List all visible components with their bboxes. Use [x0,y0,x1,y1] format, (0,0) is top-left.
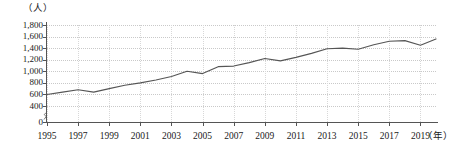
y-tick-label-800: 800 [11,78,43,87]
x-tick-mark-1997 [78,123,79,126]
y-tick-label-1400: 1,400 [11,44,43,53]
x-tick-mark-2001 [140,123,141,126]
x-axis-line [46,122,438,123]
x-tick-mark-2013 [327,123,328,126]
x-tick-mark-2017 [389,123,390,126]
x-tick-label-2013: 2013 [318,131,337,142]
x-tick-label-2005: 2005 [193,131,212,142]
x-axis-unit-label: （年） [423,131,451,142]
x-tick-mark-2015 [358,123,359,126]
x-tick-mark-1995 [47,123,48,126]
y-tick-mark-600 [43,94,47,95]
x-tick-mark-1999 [109,123,110,126]
y-tick-mark-1200 [43,60,47,61]
y-tick-mark-1000 [43,71,47,72]
x-tick-label-2017: 2017 [380,131,399,142]
y-tick-label-1800: 1,800 [11,21,43,30]
x-tick-mark-2009 [265,123,266,126]
y-tick-label-1000: 1,000 [11,67,43,76]
y-tick-mark-1600 [43,37,47,38]
x-tick-label-1997: 1997 [69,131,88,142]
plot-area [47,25,436,122]
x-tick-mark-2005 [203,123,204,126]
y-tick-mark-1800 [43,25,47,26]
y-tick-mark-1400 [43,48,47,49]
x-tick-mark-2019 [420,123,421,126]
x-tick-mark-2011 [296,123,297,126]
y-tick-label-400: 400 [11,102,43,111]
y-tick-mark-800 [43,83,47,84]
x-tick-label-1999: 1999 [100,131,119,142]
x-tick-label-2011: 2011 [287,131,306,142]
y-tick-mark-400 [43,106,47,107]
x-tick-label-2009: 2009 [255,131,274,142]
y-tick-label-1200: 1,200 [11,55,43,64]
y-tick-label-0: 0 [11,118,43,127]
y-tick-label-1600: 1,600 [11,32,43,41]
series-line-人数 [47,39,436,95]
x-tick-label-1995: 1995 [38,131,57,142]
series-line-group [47,25,436,122]
x-tick-label-2003: 2003 [162,131,181,142]
axis-break-icon [43,112,50,120]
x-tick-mark-2003 [171,123,172,126]
x-tick-label-2007: 2007 [224,131,243,142]
x-tick-label-2001: 2001 [131,131,150,142]
x-tick-mark-2007 [234,123,235,126]
y-axis-unit-label: （人） [23,3,52,14]
line-chart: （人） 04006008001,0001,2001,4001,6001,800 … [0,0,451,152]
x-tick-label-2015: 2015 [349,131,368,142]
y-tick-label-600: 600 [11,90,43,99]
